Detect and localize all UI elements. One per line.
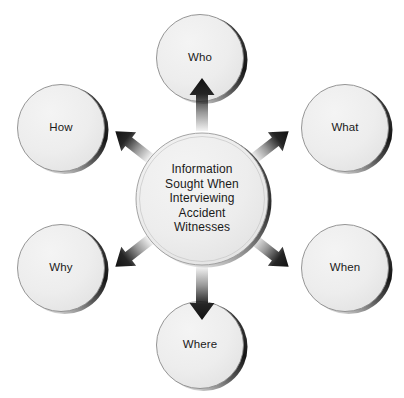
- node-how[interactable]: [18, 85, 109, 175]
- diagram-canvas: Who What When Where Why How InformationS…: [0, 0, 404, 398]
- node-when[interactable]: [302, 225, 393, 315]
- diagram-graphics: [0, 0, 404, 398]
- center-node[interactable]: [136, 133, 272, 268]
- node-why[interactable]: [18, 225, 109, 315]
- node-what[interactable]: [302, 85, 393, 175]
